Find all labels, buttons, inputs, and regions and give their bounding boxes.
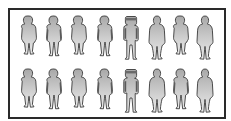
person-rounded-icon xyxy=(194,68,216,114)
row-2 xyxy=(10,68,224,114)
person-standard-icon xyxy=(68,68,90,114)
person-thin-icon xyxy=(120,68,142,114)
person-standard-icon xyxy=(18,15,40,61)
person-rounded-icon xyxy=(146,15,168,61)
person-standard-icon xyxy=(170,15,192,61)
person-shaded-arms-icon xyxy=(94,15,116,61)
figure-frame xyxy=(8,8,226,119)
person-thin-icon xyxy=(120,15,142,61)
person-rounded-icon xyxy=(194,15,216,61)
row-1 xyxy=(10,15,224,61)
person-rounded-icon xyxy=(146,68,168,114)
person-shaded-arms-icon xyxy=(94,68,116,114)
person-shaded-arms-icon xyxy=(43,68,65,114)
person-standard-icon xyxy=(68,15,90,61)
person-shaded-arms-icon xyxy=(43,15,65,61)
person-standard-icon xyxy=(18,68,40,114)
person-shaded-arms-icon xyxy=(170,68,192,114)
